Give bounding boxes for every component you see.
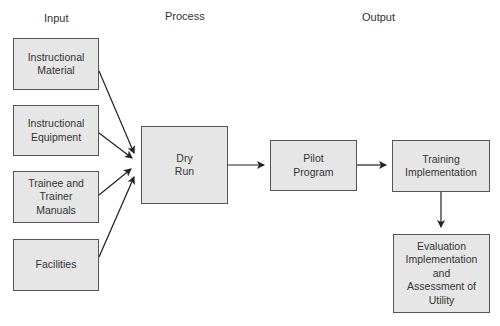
connector-arrows xyxy=(0,0,500,326)
arrow-material-to-dryrun xyxy=(99,71,134,153)
arrow-manuals-to-dryrun xyxy=(99,169,131,195)
arrow-facilities-to-dryrun xyxy=(99,177,134,257)
